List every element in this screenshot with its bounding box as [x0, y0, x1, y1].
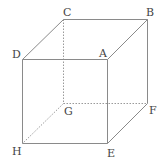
vertex-label-e: E	[107, 147, 115, 160]
vertex-label-d: D	[12, 48, 21, 61]
edge-cd	[23, 20, 64, 60]
edge-ab	[108, 20, 148, 60]
vertex-label-h: H	[12, 145, 22, 158]
cube-diagram: A B C D E F G H	[0, 0, 166, 163]
vertex-label-c: C	[63, 6, 71, 19]
cube-edges	[23, 20, 148, 144]
vertex-labels: A B C D E F G H	[12, 6, 157, 160]
edge-ef	[108, 104, 148, 144]
vertex-label-a: A	[98, 47, 108, 60]
vertex-label-f: F	[149, 104, 157, 117]
vertex-label-b: B	[146, 6, 154, 19]
hidden-edge-gh	[23, 104, 64, 144]
vertex-label-g: G	[64, 105, 73, 118]
